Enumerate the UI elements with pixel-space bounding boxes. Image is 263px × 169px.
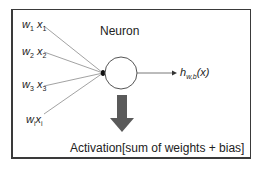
activation-arrow-shaft (117, 95, 127, 119)
neuron-circle (105, 57, 137, 89)
input-line-2 (44, 52, 103, 73)
input-label-2: w2 x2 (22, 45, 46, 59)
neuron-title: Neuron (100, 24, 139, 38)
output-label: hw,b(x) (180, 66, 209, 80)
input-line-1 (44, 26, 103, 73)
activation-label: Activation[sum of weights + bias] (70, 141, 244, 155)
input-label-1: w1 x1 (22, 18, 46, 32)
activation-arrow-head (110, 118, 134, 132)
output-arrowhead (172, 71, 177, 76)
input-label-3: w3 x3 (22, 78, 46, 92)
input-label-i: wixi (26, 113, 43, 127)
input-lines (44, 26, 103, 114)
